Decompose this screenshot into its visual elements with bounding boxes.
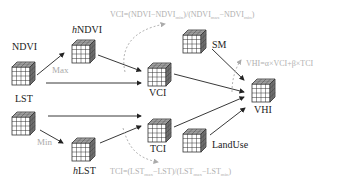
lst-cube-icon	[12, 112, 35, 135]
label-ndvi: NDVI	[12, 41, 37, 52]
edge-label-min: Min	[37, 137, 53, 147]
landuse-cube-icon	[183, 129, 206, 152]
workflow-diagram: NDVI hNDVI LST hLST VCI TCI SM VHI LandU…	[0, 0, 340, 186]
label-hlst: hLST	[73, 165, 96, 176]
arrow-vci-vhi	[174, 74, 244, 92]
label-tci: TCI	[150, 143, 166, 154]
arrow-hlst-tci	[100, 126, 141, 143]
arrow-hndvi-vci	[98, 55, 141, 71]
edge-label-max: Max	[52, 65, 69, 75]
arrow-tci-vhi	[174, 97, 244, 127]
hlst-cube-icon	[72, 138, 95, 161]
formula-tci: TCI=(LSTmax−LST)/(LSTmax−LSTmin)	[110, 167, 232, 177]
formula-vci: VCI=(NDVI−NDVImin)/(NDVImax−NDVImin)	[110, 10, 255, 20]
label-landuse: LandUse	[212, 139, 249, 150]
label-hndvi: hNDVI	[72, 24, 102, 35]
label-vhi: VHI	[254, 104, 272, 115]
ndvi-cube-icon	[12, 62, 35, 85]
label-vci: VCI	[149, 87, 166, 98]
hndvi-cube-icon	[72, 40, 95, 63]
arrow-sm-vhi	[212, 49, 244, 80]
vhi-cube-icon	[252, 79, 275, 102]
tci-cube-icon	[148, 119, 171, 142]
arrow-landuse-vhi	[210, 108, 245, 135]
formula-vhi: VHI=α×VCI+β×TCI	[246, 59, 314, 68]
vci-cube-icon	[148, 63, 171, 86]
label-lst: LST	[15, 93, 33, 104]
sm-cube-icon	[183, 30, 206, 53]
label-sm: SM	[212, 39, 227, 50]
